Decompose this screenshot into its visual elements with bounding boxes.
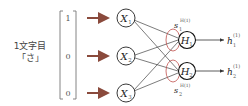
sum-label-s1: s 1 H(1) [174, 18, 191, 32]
outputs: h 1 (1) h 2 (1) [227, 32, 240, 79]
vector-value-2: 0 [65, 52, 70, 61]
connections [134, 20, 178, 91]
output-arrows [196, 40, 224, 71]
neural-network-diagram: 1文字目 「さ」 1 0 0 [0, 0, 248, 106]
hidden-nodes: H 1 H 2 [179, 32, 196, 80]
svg-text:X: X [119, 88, 128, 99]
node-x3: X 3 [117, 84, 135, 102]
svg-text:H: H [180, 66, 190, 77]
svg-text:(1): (1) [233, 63, 240, 69]
node-h1: H 1 [179, 32, 196, 49]
input-label-line2: 「さ」 [17, 53, 44, 63]
svg-text:1: 1 [189, 41, 193, 47]
summation-ellipses [166, 29, 180, 82]
node-x1: X 1 [117, 9, 135, 27]
svg-text:1: 1 [128, 19, 132, 25]
bracket-right [73, 11, 76, 99]
sum-labels: s 1 H(1) s 2 H(1) [174, 18, 191, 97]
svg-text:h: h [227, 36, 233, 46]
vector-value-3: 0 [65, 89, 70, 98]
svg-text:1: 1 [233, 42, 236, 48]
svg-text:2: 2 [189, 72, 193, 78]
svg-text:3: 3 [128, 94, 132, 100]
svg-text:H(1): H(1) [180, 83, 191, 88]
svg-text:H(1): H(1) [180, 18, 191, 23]
svg-text:h: h [227, 67, 233, 77]
svg-text:1: 1 [179, 26, 182, 32]
svg-text:X: X [119, 51, 128, 62]
vector-value-1: 1 [65, 14, 70, 23]
input-label-line1: 1文字目 [14, 40, 47, 51]
svg-text:H: H [180, 35, 190, 46]
output-h2: h 2 (1) [227, 63, 240, 79]
sum-label-s2: s 2 H(1) [174, 83, 191, 97]
node-x2: X 2 [117, 47, 135, 65]
input-nodes: X 1 X 2 X 3 [117, 9, 135, 102]
svg-text:2: 2 [128, 57, 132, 63]
input-arrows [87, 18, 108, 93]
input-vector: 1 0 0 [60, 11, 76, 99]
svg-text:X: X [119, 13, 128, 24]
svg-text:(1): (1) [233, 32, 240, 38]
node-h2: H 2 [179, 63, 196, 80]
svg-text:s: s [174, 21, 178, 30]
input-label: 1文字目 「さ」 [14, 40, 47, 63]
svg-text:s: s [174, 86, 178, 95]
svg-text:2: 2 [179, 91, 182, 97]
output-h1: h 1 (1) [227, 32, 240, 48]
bracket-left [60, 11, 63, 99]
svg-text:2: 2 [233, 73, 236, 79]
